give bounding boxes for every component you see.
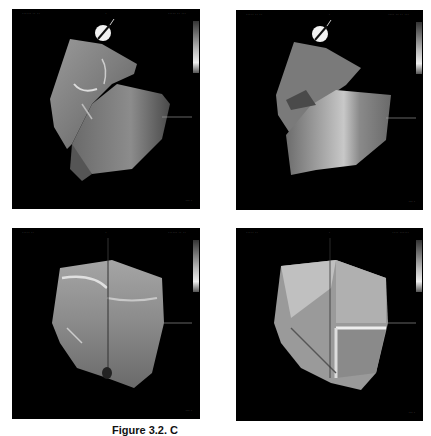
map-panel-bottom-left: ····· ·· · ······ ·· ·· ··· · bbox=[12, 228, 200, 419]
map-panel-top-left: ······ ·· ·· · ····· ·· ··· ··· · bbox=[12, 9, 200, 209]
scale-label: ··· · bbox=[186, 198, 192, 203]
scale-label: ··· · bbox=[409, 199, 415, 204]
electroanatomic-mesh bbox=[236, 10, 423, 210]
electroanatomic-mesh bbox=[12, 9, 200, 209]
catheter-icon bbox=[312, 20, 331, 42]
figure-caption: Figure 3.2. C bbox=[112, 424, 178, 436]
catheter-icon bbox=[95, 19, 114, 41]
map-panel-bottom-right: ····· ·· · ···· ······ ··· · bbox=[236, 228, 423, 421]
electroanatomic-mesh bbox=[236, 228, 423, 421]
scale-label: ··· · bbox=[186, 408, 192, 413]
electroanatomic-mesh bbox=[12, 228, 200, 419]
scale-label: ··· · bbox=[409, 410, 415, 415]
map-panel-top-right: ····· ·· ·· · ···· ·· ·· ··· ··· · bbox=[236, 10, 423, 210]
